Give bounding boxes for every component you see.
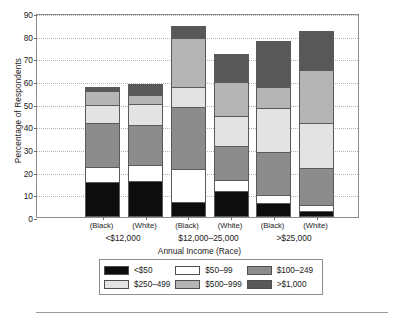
y-tick-label: 20 — [24, 169, 33, 179]
chart-legend: <$50$50–99$100–249$250–499$500–999>$1,00… — [99, 259, 323, 295]
bar-segment — [256, 203, 291, 217]
bar-segment — [214, 54, 249, 82]
bar-segment — [299, 205, 334, 212]
bar-segment — [299, 168, 334, 204]
y-tick-label: 90 — [24, 10, 33, 20]
y-axis-title: Percentage of Respondents — [14, 31, 23, 191]
y-tick-label: 30 — [24, 146, 33, 156]
x-tick-mark — [103, 217, 104, 220]
bar-segment — [256, 195, 291, 203]
bar-segment — [214, 146, 249, 180]
bar-segment — [256, 108, 291, 152]
x-axis-title: Annual Income (Race) — [0, 246, 399, 256]
legend-label: $500–999 — [205, 280, 241, 289]
stacked-bar-chart-figure: Percentage of Respondents 01020304050607… — [0, 0, 399, 326]
stacked-bar — [256, 41, 291, 217]
bar-segment — [128, 181, 163, 217]
legend-label: $250–499 — [134, 280, 170, 289]
bar-segment — [128, 84, 163, 94]
bar-segment — [85, 105, 120, 123]
stacked-bar — [299, 31, 334, 217]
bar-segment — [299, 123, 334, 168]
bar-segment — [171, 87, 206, 107]
bar-segment — [256, 87, 291, 109]
y-tick-label: 80 — [24, 33, 33, 43]
legend-swatch — [104, 280, 129, 289]
legend-swatch — [247, 280, 272, 289]
x-tick-mark — [317, 217, 318, 220]
bar-segment — [171, 26, 206, 38]
bar-segment — [299, 70, 334, 123]
bar-segment — [256, 152, 291, 195]
legend-swatch — [104, 266, 129, 275]
y-tick-label: 40 — [24, 123, 33, 133]
legend-item: $500–999 — [175, 280, 246, 289]
bar-segment — [128, 125, 163, 165]
legend-row: <$50$50–99$100–249 — [104, 263, 318, 277]
legend-label: $50–99 — [205, 266, 232, 275]
stacked-bar — [171, 26, 206, 217]
legend-item: $50–99 — [175, 266, 246, 275]
legend-label: >$1,000 — [277, 280, 307, 289]
y-tick-label: 50 — [24, 101, 33, 111]
y-tick-mark — [34, 219, 37, 220]
bar-segment — [85, 167, 120, 182]
bar-segment — [214, 82, 249, 116]
stacked-bar — [128, 84, 163, 217]
y-tick-label: 60 — [24, 78, 33, 88]
footer-divider — [36, 312, 388, 313]
legend-label: <$50 — [134, 266, 152, 275]
x-tick-label-race: (White) — [291, 221, 341, 230]
bar-segment — [171, 169, 206, 202]
bar-segment — [171, 107, 206, 169]
bar-segment — [214, 116, 249, 145]
bar-segment — [128, 165, 163, 181]
legend-item: <$50 — [104, 266, 175, 275]
bar-segment — [85, 91, 120, 105]
stacked-bar — [85, 87, 120, 217]
x-tick-mark — [274, 217, 275, 220]
stacked-bar — [214, 54, 249, 217]
bar-segment — [214, 191, 249, 217]
bar-segment — [299, 31, 334, 70]
bar-segment — [171, 202, 206, 217]
x-tick-mark — [146, 217, 147, 220]
y-tick-label: 0 — [28, 214, 33, 224]
y-tick-label: 10 — [24, 191, 33, 201]
bar-segment — [128, 104, 163, 126]
legend-item: $250–499 — [104, 280, 175, 289]
legend-item: >$1,000 — [247, 280, 318, 289]
legend-swatch — [175, 266, 200, 275]
legend-swatch — [175, 280, 200, 289]
x-tick-mark — [231, 217, 232, 220]
plot-area: 0102030405060708090 — [36, 14, 359, 218]
bar-segment — [85, 182, 120, 217]
bar-segment — [85, 123, 120, 167]
legend-label: $100–249 — [277, 266, 313, 275]
x-tick-mark — [188, 217, 189, 220]
bars-layer — [37, 15, 358, 217]
legend-swatch — [247, 266, 272, 275]
y-tick-label: 70 — [24, 55, 33, 65]
bar-segment — [128, 95, 163, 104]
x-group-label: >$25,000 — [239, 233, 349, 243]
bar-segment — [256, 41, 291, 86]
legend-row: $250–499$500–999>$1,000 — [104, 277, 318, 291]
bar-segment — [171, 38, 206, 87]
legend-item: $100–249 — [247, 266, 318, 275]
bar-segment — [214, 180, 249, 191]
